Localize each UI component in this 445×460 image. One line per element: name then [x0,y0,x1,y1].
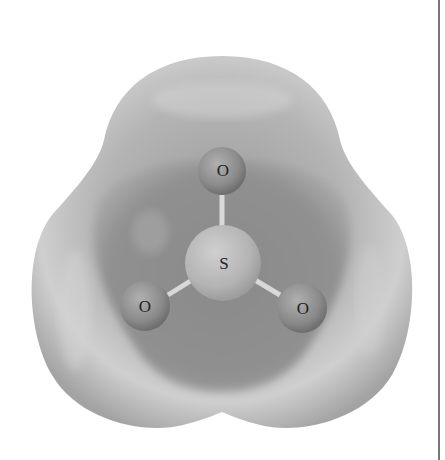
atom-label-o-top: O [217,161,229,181]
atom-label-o-right: O [297,299,309,319]
page-margin-rule [438,0,440,460]
atom-label-s: S [219,254,228,274]
atom-label-o-left: O [139,297,151,317]
so3-potential-map [0,0,445,460]
